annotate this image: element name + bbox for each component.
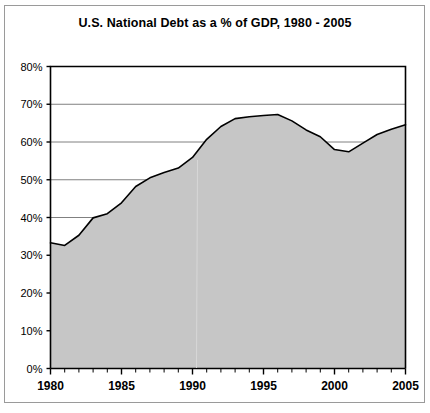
debt-area-fill	[51, 114, 406, 368]
y-axis-tick-labels: 0%10%20%30%40%50%60%70%80%	[20, 61, 42, 375]
y-tick-label-50: 50%	[20, 174, 42, 186]
y-tick-label-0: 0%	[27, 363, 43, 375]
y-tick-label-30: 30%	[20, 249, 42, 261]
chart-figure: U.S. National Debt as a % of GDP, 1980 -…	[0, 0, 430, 413]
y-tick-label-10: 10%	[20, 325, 42, 337]
x-tick-label-1995: 1995	[250, 379, 277, 393]
y-tick-label-60: 60%	[20, 136, 42, 148]
area-chart-plot: 0%10%20%30%40%50%60%70%80% 1980198519901…	[0, 0, 430, 413]
y-tick-label-70: 70%	[20, 98, 42, 110]
x-tick-label-1980: 1980	[37, 379, 64, 393]
x-tick-label-1990: 1990	[179, 379, 206, 393]
y-tick-label-40: 40%	[20, 212, 42, 224]
x-tick-label-1985: 1985	[108, 379, 135, 393]
y-tick-label-80: 80%	[20, 61, 42, 73]
y-tick-label-20: 20%	[20, 287, 42, 299]
x-axis-tick-labels: 198019851990199520002005	[37, 379, 419, 393]
x-tick-label-2005: 2005	[392, 379, 419, 393]
x-tick-label-2000: 2000	[321, 379, 348, 393]
x-axis-ticks	[51, 369, 406, 375]
